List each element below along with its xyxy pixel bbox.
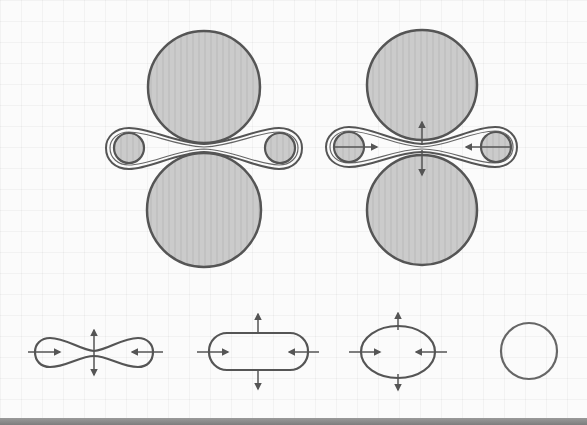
left-guide-roll [114,133,144,163]
right-guide-roll [265,133,295,163]
stage-4-circle [501,323,557,379]
diagram-svg [0,0,587,425]
upper-roll [148,31,260,143]
stage-2-stadium [197,314,319,389]
stage-1-dog-bone [28,330,163,375]
round-bar-shape [501,323,557,379]
lower-roll [147,153,261,267]
panel-rolling-with-forces [326,30,517,265]
stage-3-ellipse [349,313,447,390]
panel-rolling-without-forces [106,31,302,267]
